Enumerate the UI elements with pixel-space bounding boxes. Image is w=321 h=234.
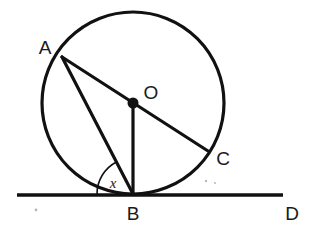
center-point-dot bbox=[128, 98, 139, 109]
point-label-d: D bbox=[285, 203, 299, 224]
chord-line-ab bbox=[62, 57, 133, 194]
point-label-o: O bbox=[144, 82, 159, 103]
geometry-figure: A O B C D x bbox=[0, 0, 321, 234]
geometry-canvas: A O B C D x bbox=[0, 0, 321, 234]
point-label-b: B bbox=[127, 203, 140, 224]
point-label-c: C bbox=[216, 148, 230, 169]
point-label-a: A bbox=[39, 37, 52, 58]
angle-label-x: x bbox=[109, 175, 117, 191]
